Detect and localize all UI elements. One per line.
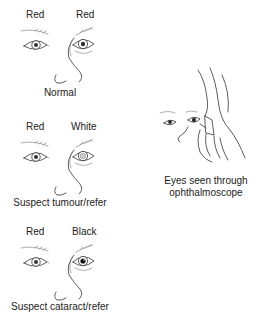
pupil-black [80, 258, 85, 263]
ophthalmoscope-scene [160, 68, 245, 162]
face-cataract [21, 244, 94, 300]
face-normal [21, 27, 94, 83]
face-tumour [21, 139, 94, 195]
face-illustrations [0, 0, 262, 318]
pupil-normal [81, 42, 85, 46]
pupil-white [80, 153, 86, 159]
